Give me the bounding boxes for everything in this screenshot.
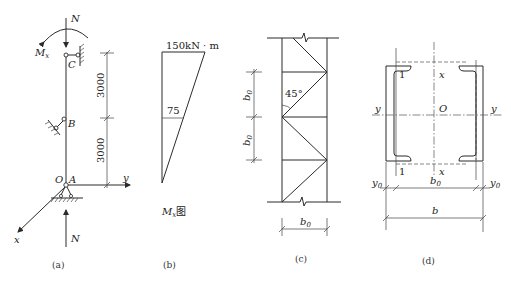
dim-y0-left-label: y0 — [371, 177, 383, 190]
roller-right-icon — [69, 194, 72, 197]
dim-b0-width-label: b0 — [300, 216, 311, 229]
diagonal-4 — [282, 160, 327, 202]
hinge-a-icon — [64, 183, 68, 187]
dimension-upper-label: 3000 — [95, 73, 106, 98]
moment-diagram-title: Mx图 — [161, 206, 186, 219]
moment-label: Mx — [34, 47, 49, 60]
dim-b0-upper-label: b0 — [241, 90, 254, 101]
ground-hatch — [51, 198, 78, 202]
angle-arc — [282, 105, 291, 109]
support-a-right-leg — [67, 187, 71, 195]
panel-b-moment-diagram: 150kN · m 75 Mx图 (b) — [161, 40, 219, 270]
caption-d: (d) — [422, 256, 435, 266]
break-line-bottom — [267, 197, 341, 206]
axial-force-bottom-label: N — [70, 233, 81, 244]
section-marker-1-bottom: 1 — [399, 166, 405, 177]
panel-c-lattice-diagram: 45° b0 b0 b0 (c) — [241, 33, 341, 264]
dim-b0-lower-label: b0 — [241, 135, 254, 146]
panel-a-column-diagram: N Mx C B — [14, 13, 130, 270]
node-b-label: B — [67, 118, 75, 129]
panel-d-cross-section: 1 x y y O 1 x y0 b0 y0 b (d) — [371, 42, 502, 266]
moment-top-value: 150kN · m — [166, 40, 219, 51]
left-channel-section — [386, 66, 411, 161]
break-line-top — [267, 33, 339, 42]
moment-triangle — [162, 52, 205, 183]
axis-y-right-label: y — [490, 103, 497, 114]
origin-o-label: O — [55, 174, 63, 185]
hinge-c-wall-icon — [76, 53, 80, 57]
axis-x-bottom-label: x — [439, 166, 445, 177]
roller-left-icon — [59, 194, 62, 197]
dim-b-label: b — [432, 205, 438, 216]
angle-label: 45° — [285, 88, 303, 99]
section-marker-1-top: 1 — [399, 69, 405, 80]
caption-b: (b) — [163, 260, 176, 270]
figure-canvas: N Mx C B — [0, 0, 511, 281]
diagonal-3 — [282, 117, 327, 160]
dim-y0-right-label: y0 — [489, 177, 501, 190]
diagonal-1 — [293, 38, 327, 72]
right-channel-section — [459, 66, 483, 161]
node-c-label: C — [68, 59, 76, 70]
moment-mid-value: 75 — [167, 105, 180, 116]
caption-a: (a) — [52, 260, 64, 270]
hinge-b-icon — [62, 117, 66, 121]
wall-hatch-c — [80, 44, 84, 63]
node-a-label: A — [68, 174, 76, 185]
axis-x-top-label: x — [439, 69, 445, 80]
axial-force-top-label: N — [70, 13, 81, 24]
x-axis-label: x — [14, 234, 20, 245]
caption-c: (c) — [295, 254, 307, 264]
link-b — [57, 121, 63, 127]
axis-y-left-label: y — [374, 103, 381, 114]
hinge-c-icon — [64, 53, 68, 57]
x-axis-arrow — [18, 187, 65, 232]
y-axis-label: y — [122, 172, 129, 183]
dimension-lower-label: 3000 — [95, 138, 106, 163]
origin-o-label-d: O — [439, 103, 447, 114]
